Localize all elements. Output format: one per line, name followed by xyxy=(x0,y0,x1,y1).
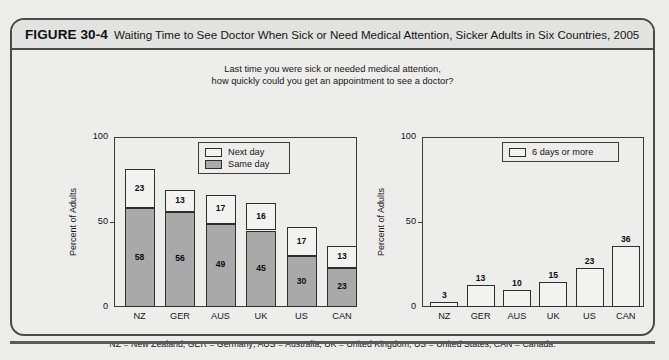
x-axis-tick-label: GER xyxy=(159,311,201,321)
legend-swatch xyxy=(509,148,526,157)
x-axis-tick-label: US xyxy=(281,311,323,321)
bar-value-label: 49 xyxy=(206,259,236,269)
bar-segment xyxy=(503,290,531,307)
figure-container: FIGURE 30-4 Waiting Time to See Doctor W… xyxy=(10,18,655,336)
y-axis-tick-label: 50 xyxy=(390,216,416,226)
bar-value-label: 23 xyxy=(125,183,155,193)
y-axis-tick-label: 100 xyxy=(390,131,416,141)
x-axis-tick-label: AUS xyxy=(497,311,537,321)
y-axis-tick-label: 50 xyxy=(82,216,108,226)
bar-value-label: 30 xyxy=(287,276,317,286)
bar-value-label: 56 xyxy=(165,253,195,263)
subtitle-line-2: how quickly could you get an appointment… xyxy=(12,76,653,88)
y-axis-tick-label: 0 xyxy=(82,301,108,311)
bar-value-label: 15 xyxy=(539,270,567,280)
legend-label: 6 days or more xyxy=(532,147,593,157)
x-axis-tick-label: CAN xyxy=(321,311,363,321)
bottom-rule xyxy=(10,341,655,344)
x-axis-tick-label: GER xyxy=(461,311,501,321)
figure-header: FIGURE 30-4 Waiting Time to See Doctor W… xyxy=(12,20,653,50)
bar-value-label: 58 xyxy=(125,252,155,262)
bar-value-label: 13 xyxy=(165,195,195,205)
chart-panel-right: Percent of Adults0501003NZ13GER10AUS15UK… xyxy=(364,120,654,325)
legend-swatch xyxy=(205,148,222,157)
x-axis-tick-label: UK xyxy=(240,311,282,321)
bar-value-label: 3 xyxy=(430,290,458,300)
chart-legend: Next daySame day xyxy=(198,142,290,174)
x-axis-tick-label: NZ xyxy=(424,311,464,321)
chart-panel-left: Percent of Adults0501005823NZ5613GER4917… xyxy=(36,120,366,325)
bar-segment xyxy=(539,282,567,308)
x-axis-tick-label: AUS xyxy=(200,311,242,321)
bar-value-label: 13 xyxy=(327,251,357,261)
y-axis-tick-label: 0 xyxy=(390,301,416,311)
bar-value-label: 23 xyxy=(327,281,357,291)
bar-value-label: 23 xyxy=(576,256,604,266)
bar-value-label: 36 xyxy=(612,234,640,244)
subtitle-line-1: Last time you were sick or needed medica… xyxy=(12,64,653,76)
bar-segment xyxy=(430,302,458,307)
figure-number: FIGURE 30-4 xyxy=(25,27,108,42)
bar-segment xyxy=(467,285,495,307)
x-axis-tick-label: UK xyxy=(533,311,573,321)
bar-value-label: 13 xyxy=(467,273,495,283)
bar-segment xyxy=(576,268,604,307)
legend-item: Same day xyxy=(205,158,283,170)
bar-value-label: 17 xyxy=(287,236,317,246)
legend-label: Next day xyxy=(228,147,264,157)
legend-item: Next day xyxy=(205,146,283,158)
bar-value-label: 10 xyxy=(503,278,531,288)
plot-area xyxy=(422,137,644,307)
legend-swatch xyxy=(205,160,222,169)
chart-question-subtitle: Last time you were sick or needed medica… xyxy=(12,64,653,87)
legend-item: 6 days or more xyxy=(509,146,612,158)
bar-value-label: 17 xyxy=(206,203,236,213)
chart-legend: 6 days or more xyxy=(502,142,619,162)
bar-segment xyxy=(612,246,640,307)
y-axis-label: Percent of Adults xyxy=(376,137,386,307)
bar-value-label: 16 xyxy=(246,211,276,221)
bar-value-label: 45 xyxy=(246,263,276,273)
figure-title: Waiting Time to See Doctor When Sick or … xyxy=(114,28,639,41)
x-axis-tick-label: NZ xyxy=(119,311,161,321)
x-axis-tick-label: US xyxy=(570,311,610,321)
y-axis-tick-label: 100 xyxy=(82,131,108,141)
x-axis-tick-label: CAN xyxy=(606,311,646,321)
legend-label: Same day xyxy=(228,159,269,169)
y-axis-label: Percent of Adults xyxy=(68,137,78,307)
